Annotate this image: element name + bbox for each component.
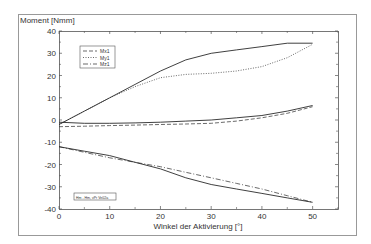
y-tick-label: 10 bbox=[47, 94, 56, 103]
x-tick-label: 50 bbox=[308, 212, 317, 221]
annotation-text: Hm - Hm, vPr Ve02a bbox=[76, 196, 108, 200]
x-tick-label: 10 bbox=[105, 212, 114, 221]
x-tick-label: 30 bbox=[207, 212, 216, 221]
annotation-box: Hm - Hm, vPr Ve02a bbox=[74, 193, 116, 200]
outer-frame bbox=[19, 15, 357, 236]
y-tick-label: 30 bbox=[47, 49, 56, 58]
y-axis-label: Moment [Nmm] bbox=[20, 16, 75, 25]
legend-label: Mz1 bbox=[100, 61, 110, 67]
x-tick-label: 40 bbox=[257, 212, 266, 221]
y-tick-label: -40 bbox=[44, 205, 56, 214]
chart-figure: Moment [Nmm] 403020100-10-20-30-40 01020… bbox=[0, 0, 371, 244]
y-tick-label: -30 bbox=[44, 183, 56, 192]
x-axis-label: Winkel der Aktivierung [°] bbox=[153, 222, 242, 231]
y-tick-label: 0 bbox=[52, 116, 57, 125]
legend-label: Mx1 bbox=[100, 48, 110, 54]
x-tick-label: 0 bbox=[57, 212, 62, 221]
legend-label: My1 bbox=[100, 55, 110, 61]
legend: Mx1My1Mz1 bbox=[80, 46, 115, 68]
y-tick-label: -10 bbox=[44, 138, 56, 147]
y-tick-label: 40 bbox=[47, 27, 56, 36]
x-tick-label: 20 bbox=[156, 212, 165, 221]
y-tick-label: 20 bbox=[47, 72, 56, 81]
y-tick-label: -20 bbox=[44, 161, 56, 170]
